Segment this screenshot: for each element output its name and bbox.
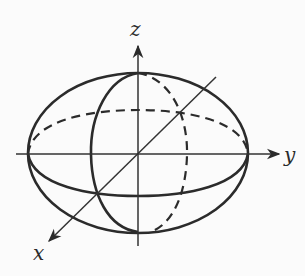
meridian-back-curve bbox=[138, 73, 187, 232]
x-axis-label: x bbox=[33, 241, 44, 265]
z-axis-label: z bbox=[129, 17, 141, 41]
diagram-canvas: z y x bbox=[0, 0, 305, 276]
y-axis-label: y bbox=[283, 143, 296, 167]
meridian-front-curve bbox=[91, 73, 138, 232]
ellipsoid-diagram: z y x bbox=[0, 0, 305, 276]
x-axis bbox=[49, 77, 216, 241]
